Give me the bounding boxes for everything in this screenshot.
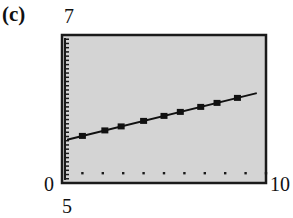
screen-frame bbox=[62, 35, 266, 183]
x-tick-dot bbox=[265, 172, 267, 174]
x-tick-dot bbox=[183, 172, 185, 174]
data-point-marker bbox=[161, 113, 168, 119]
calculator-screen-plot bbox=[0, 0, 293, 218]
data-point-marker bbox=[101, 127, 108, 133]
x-tick-dot bbox=[244, 172, 246, 174]
x-tick-dot bbox=[204, 172, 206, 174]
data-point-marker bbox=[214, 100, 221, 106]
x-tick-dot bbox=[102, 172, 104, 174]
data-point-marker bbox=[177, 109, 184, 115]
x-tick-dot bbox=[224, 172, 226, 174]
data-point-marker bbox=[234, 95, 241, 101]
x-tick-dot bbox=[163, 172, 165, 174]
x-tick-dot bbox=[142, 172, 144, 174]
data-point-marker bbox=[118, 123, 125, 129]
x-tick-dot bbox=[81, 172, 83, 174]
data-point-marker bbox=[140, 118, 147, 124]
data-point-marker bbox=[197, 104, 204, 110]
data-point-marker bbox=[79, 133, 86, 139]
x-tick-dot bbox=[122, 172, 124, 174]
